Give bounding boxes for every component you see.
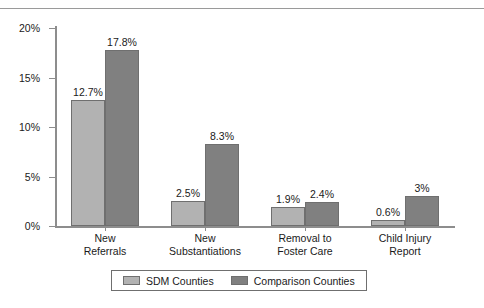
category-label-line: Foster Care xyxy=(277,245,332,258)
bar xyxy=(71,100,105,226)
category-label-line: Substantiations xyxy=(169,245,241,258)
bar-value-label: 17.8% xyxy=(107,36,137,48)
chart-legend: SDM CountiesComparison Counties xyxy=(111,270,367,291)
bar xyxy=(171,201,205,226)
y-axis-tick-label: 15% xyxy=(19,72,40,84)
top-divider-rule xyxy=(0,8,484,9)
category-label-line: Report xyxy=(379,245,432,258)
bar-value-label: 8.3% xyxy=(210,130,234,142)
category-label: Child InjuryReport xyxy=(379,232,432,257)
legend-entry: SDM Counties xyxy=(123,275,214,287)
legend-entry: Comparison Counties xyxy=(231,275,355,287)
bar xyxy=(271,207,305,226)
bar-value-label: 1.9% xyxy=(276,193,300,205)
y-axis-tick: 5% xyxy=(49,177,55,178)
category-label-line: New xyxy=(169,232,241,245)
bar xyxy=(371,220,405,226)
y-axis-tick-label: 0% xyxy=(25,220,40,232)
category-label-line: Removal to xyxy=(277,232,332,245)
legend-label: Comparison Counties xyxy=(254,275,355,287)
bar-value-label: 12.7% xyxy=(73,86,103,98)
y-axis-tick: 20% xyxy=(49,28,55,29)
bar xyxy=(105,50,139,226)
x-axis-line xyxy=(55,226,455,228)
legend-swatch xyxy=(231,276,248,285)
y-axis-tick-label: 10% xyxy=(19,121,40,133)
bar xyxy=(305,202,339,226)
x-axis-tick xyxy=(205,226,206,231)
bar-value-label: 0.6% xyxy=(376,206,400,218)
category-label-line: Referrals xyxy=(84,245,127,258)
y-axis-tick-label: 20% xyxy=(19,22,40,34)
bar-value-label: 3% xyxy=(414,182,429,194)
category-label-line: Child Injury xyxy=(379,232,432,245)
legend-label: SDM Counties xyxy=(146,275,214,287)
bar xyxy=(405,196,439,226)
bar-value-label: 2.5% xyxy=(176,187,200,199)
y-axis-tick-label: 5% xyxy=(25,171,40,183)
x-axis-tick xyxy=(105,226,106,231)
category-label: Removal toFoster Care xyxy=(277,232,332,257)
x-axis-tick xyxy=(305,226,306,231)
plot-area: 0%5%10%15%20% 12.7%17.8%2.5%8.3%1.9%2.4%… xyxy=(55,26,455,228)
y-axis-line xyxy=(55,26,57,228)
bar-chart-figure: 0%5%10%15%20% 12.7%17.8%2.5%8.3%1.9%2.4%… xyxy=(0,0,484,308)
y-axis-tick: 10% xyxy=(49,127,55,128)
x-axis-tick xyxy=(405,226,406,231)
y-axis-tick: 0% xyxy=(49,226,55,227)
category-label: NewSubstantiations xyxy=(169,232,241,257)
y-axis-tick: 15% xyxy=(49,78,55,79)
bar-value-label: 2.4% xyxy=(310,188,334,200)
bar xyxy=(205,144,239,226)
category-label: NewReferrals xyxy=(84,232,127,257)
legend-swatch xyxy=(123,276,140,285)
category-label-line: New xyxy=(84,232,127,245)
